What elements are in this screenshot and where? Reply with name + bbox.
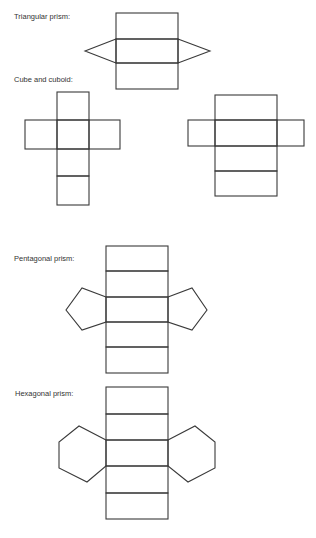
- pentagon-face-left: [66, 288, 106, 330]
- triangle-face-left: [85, 39, 116, 63]
- rect-face: [215, 171, 277, 196]
- square-face: [57, 176, 89, 205]
- hexagon-face-left: [59, 426, 106, 482]
- triangle-face-right: [178, 39, 210, 63]
- rect-face: [106, 246, 168, 271]
- rect-face: [116, 63, 178, 89]
- rect-face: [106, 493, 168, 519]
- triangular-prism-net: [85, 13, 210, 89]
- rect-face: [106, 297, 168, 322]
- cube-net: [25, 92, 120, 205]
- nets-diagram: [0, 0, 316, 538]
- rect-face: [106, 466, 168, 493]
- pentagonal-prism-net: [66, 246, 207, 373]
- hexagon-face-right: [168, 426, 215, 482]
- rect-face: [106, 387, 168, 414]
- rect-face: [277, 120, 304, 146]
- pentagon-face-right: [168, 288, 207, 330]
- rect-face: [116, 39, 178, 63]
- rect-face: [106, 440, 168, 466]
- rect-face: [106, 271, 168, 297]
- square-face: [25, 120, 57, 149]
- square-face: [57, 92, 89, 120]
- square-face: [57, 149, 89, 176]
- cuboid-net: [188, 95, 304, 196]
- rect-face: [215, 95, 277, 120]
- square-face: [89, 120, 120, 149]
- rect-face: [106, 414, 168, 440]
- hexagonal-prism-net: [59, 387, 215, 519]
- rect-face: [106, 347, 168, 373]
- rect-face: [106, 322, 168, 347]
- rect-face: [188, 120, 215, 146]
- rect-face: [116, 13, 178, 39]
- square-face: [57, 120, 89, 149]
- rect-face: [215, 120, 277, 146]
- rect-face: [215, 146, 277, 171]
